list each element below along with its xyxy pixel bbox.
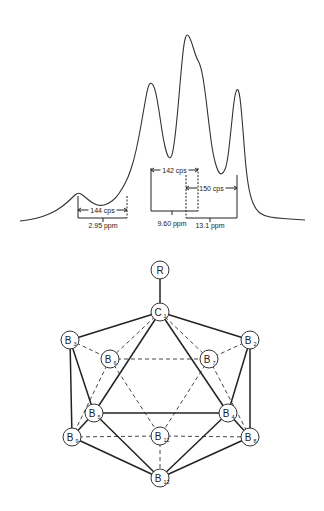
atom-B4: B4 <box>219 404 237 422</box>
atom-subscript: 5 <box>98 414 101 420</box>
atom-symbol: B <box>245 335 252 346</box>
dashed-bond-B11-B8 <box>160 436 250 437</box>
atom-subscript: 3 <box>74 341 77 347</box>
annotation-coupling-142: 142 cps9.60 ppm <box>151 167 198 229</box>
atom-symbol: B <box>105 354 112 365</box>
atom-B11: B11 <box>151 427 169 445</box>
dashed-bond-B9-B11 <box>72 436 160 437</box>
shift-label: 13.1 ppm <box>195 222 224 230</box>
spectrum-line <box>20 35 305 221</box>
shift-label: 2.95 ppm <box>88 222 117 230</box>
atom-symbol: B <box>245 432 252 443</box>
icosahedron-bonds <box>70 270 250 478</box>
atom-subscript: 11 <box>164 437 170 443</box>
atom-symbol: B <box>67 432 74 443</box>
atom-B6: B6 <box>101 350 119 368</box>
solid-bond-C1-B3 <box>70 312 160 340</box>
solid-bond-B5-B12 <box>94 413 160 478</box>
atom-B12: B12 <box>151 469 170 487</box>
coupling-label: 142 cps <box>162 167 187 175</box>
atom-B2: B2 <box>241 331 259 349</box>
coupling-label: 144 cps <box>90 207 115 215</box>
atom-symbol: C <box>154 307 161 318</box>
atom-B7: B7 <box>200 350 218 368</box>
atom-subscript: 2 <box>254 341 257 347</box>
dashed-bond-B7-B11 <box>160 359 209 436</box>
atom-B9: B9 <box>63 428 81 446</box>
solid-bond-C1-B2 <box>160 312 250 340</box>
solid-bond-B3-B9 <box>70 340 72 437</box>
atom-symbol: B <box>204 354 211 365</box>
coupling-annotations: 144 cps2.95 ppm142 cps9.60 ppm150 cps13.… <box>78 167 237 231</box>
solid-bond-B2-B4 <box>228 340 250 413</box>
atom-subscript: 7 <box>213 360 216 366</box>
annotation-coupling-144: 144 cps2.95 ppm <box>78 196 127 230</box>
atom-R: R <box>151 261 169 279</box>
atom-symbol: B <box>65 335 72 346</box>
atom-symbol: B <box>155 431 162 442</box>
solid-bond-B8-B12 <box>160 437 250 478</box>
atom-subscript: 12 <box>164 479 170 485</box>
atom-subscript: 6 <box>114 360 117 366</box>
atom-subscript: 4 <box>232 414 235 420</box>
atom-symbol: B <box>223 408 230 419</box>
atom-symbol: B <box>89 408 96 419</box>
atom-B5: B5 <box>85 404 103 422</box>
atom-B8: B8 <box>241 428 259 446</box>
nmr-figure: 144 cps2.95 ppm142 cps9.60 ppm150 cps13.… <box>0 0 324 511</box>
atom-C1: C1 <box>151 303 169 321</box>
dashed-bond-B6-B11 <box>110 359 160 436</box>
solid-bond-B9-B12 <box>72 437 160 478</box>
atom-symbol: B <box>155 473 162 484</box>
solid-bond-B4-B12 <box>160 413 228 478</box>
coupling-label: 150 cps <box>199 185 224 193</box>
atom-subscript: 8 <box>254 438 257 444</box>
atom-subscript: 1 <box>164 313 167 319</box>
nmr-spectrum-trace <box>20 35 305 221</box>
atom-symbol: R <box>156 265 163 276</box>
shift-label: 9.60 ppm <box>157 220 186 228</box>
annotation-coupling-150: 150 cps13.1 ppm <box>186 175 237 230</box>
solid-bond-B3-B5 <box>70 340 94 413</box>
atom-subscript: 9 <box>76 438 79 444</box>
atom-B3: B3 <box>61 331 79 349</box>
